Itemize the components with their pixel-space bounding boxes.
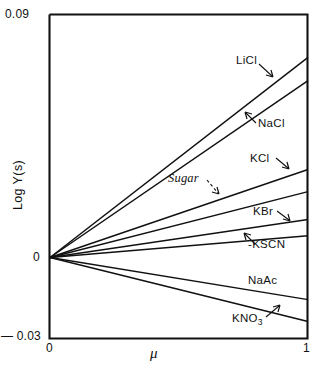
- series-label-kcl: KCl: [250, 153, 269, 165]
- y-axis-tick-zero: 0: [33, 251, 40, 263]
- x-axis-title: μ: [150, 345, 158, 362]
- plot-area-svg: [0, 0, 323, 369]
- y-axis-tick-bottom: — 0.03: [1, 330, 41, 342]
- series-label-kno3-base: KNO: [232, 312, 258, 324]
- series-label-kno3: KNO3: [232, 313, 263, 327]
- arrow-sugar: [207, 180, 219, 194]
- series-label-sugar: Sugar: [168, 172, 199, 185]
- series-label-kbr: KBr: [253, 206, 273, 218]
- figure-chart-activity-coefficient: 0.09 0 — 0.03 0 1 Log Y(s) μ LiCl NaCl K…: [0, 0, 323, 369]
- data-line-nacl: [50, 81, 308, 258]
- x-axis-tick-one: 1: [303, 342, 310, 354]
- y-axis-title: Log Y(s): [11, 149, 25, 221]
- series-label-kscn: -KSCN: [248, 239, 285, 251]
- x-axis-tick-zero: 0: [46, 342, 53, 354]
- y-axis-tick-top: 0.09: [5, 8, 29, 20]
- arrow-kcl: [276, 158, 289, 169]
- series-label-licl: LiCl: [236, 55, 257, 67]
- data-line-kno3: [50, 258, 308, 322]
- arrow-kbr: [277, 211, 290, 221]
- series-label-nacl: NaCl: [258, 118, 285, 130]
- arrow-licl: [259, 64, 273, 77]
- series-label-naac: NaAc: [248, 275, 277, 287]
- series-label-kno3-subscript: 3: [258, 317, 263, 327]
